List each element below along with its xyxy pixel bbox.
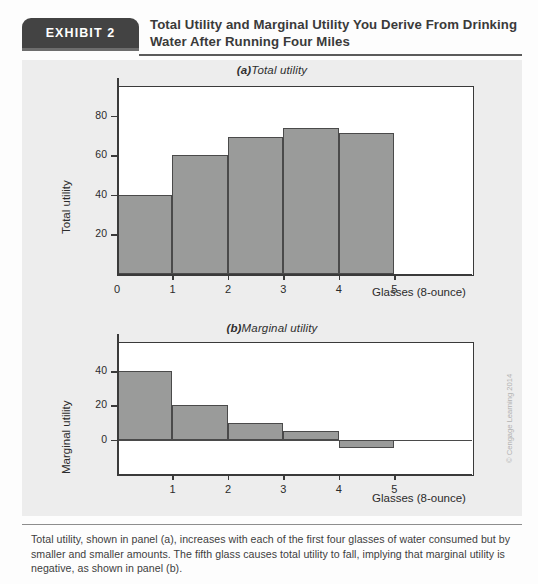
- chart-b-xtick: [228, 474, 230, 480]
- chart-a-ytick: [111, 155, 117, 157]
- chart-a-xtick: [172, 274, 174, 280]
- chart-a-xtick: [339, 274, 341, 280]
- copyright-credit: © Cengage Learning 2014: [505, 374, 514, 463]
- exhibit-header: EXHIBIT 2 Total Utility and Marginal Uti…: [0, 18, 538, 60]
- chart-a-ytick: [111, 116, 117, 118]
- chart-b-xtick-label: 5: [382, 483, 406, 495]
- bar-4-5: [339, 133, 394, 274]
- chart-b-ytick: [111, 440, 117, 442]
- chart-b-ytick-label: 0: [77, 433, 107, 445]
- chart-a-xtick-label: 4: [327, 283, 351, 295]
- chart-b-xtick: [283, 474, 285, 480]
- chart-a-y-axis: [117, 78, 119, 274]
- badge-underline: [22, 48, 139, 51]
- chart-a-title-text: Total utility: [251, 64, 307, 76]
- bar-0-1: [117, 371, 172, 440]
- chart-a-title-prefix: (a): [237, 64, 252, 76]
- chart-b-xtick-label: 3: [271, 483, 295, 495]
- chart-b-zero-line: [117, 440, 472, 441]
- chart-a-title: (a)Total utility: [22, 64, 522, 76]
- chart-b-xtick: [172, 474, 174, 480]
- chart-b-x-axis: [117, 474, 472, 476]
- chart-a-xtick-label: 0: [105, 283, 129, 295]
- chart-b-title-text: Marginal utility: [242, 322, 318, 334]
- chart-a-xtick: [283, 274, 285, 280]
- chart-a-ytick-label: 60: [77, 148, 107, 160]
- bar-3-4: [283, 128, 338, 274]
- chart-total-utility: (a)Total utility Total utility Glasses (…: [22, 64, 522, 304]
- chart-a-ytick-label: 20: [77, 227, 107, 239]
- chart-a-xtick-label: 3: [271, 283, 295, 295]
- chart-b-xtick: [394, 474, 396, 480]
- bar-2-3: [228, 423, 283, 440]
- chart-b-ytick: [111, 405, 117, 407]
- chart-b-y-axis: [117, 334, 119, 474]
- chart-b-title-prefix: (b): [226, 322, 241, 334]
- exhibit-title: Total Utility and Marginal Utility You D…: [150, 17, 522, 50]
- chart-a-xtick-label: 5: [382, 283, 406, 295]
- chart-a-xtick-label: 2: [216, 283, 240, 295]
- chart-a-ylabel: Total utility: [60, 180, 72, 234]
- bar-1-2: [172, 155, 227, 274]
- bar-2-3: [228, 137, 283, 274]
- chart-b-title: (b)Marginal utility: [22, 322, 522, 334]
- chart-b-xtick: [339, 474, 341, 480]
- chart-a-ytick: [111, 195, 117, 197]
- bar-0-1: [117, 195, 172, 274]
- exhibit-badge: EXHIBIT 2: [22, 18, 139, 48]
- chart-b-xtick-label: 1: [160, 483, 184, 495]
- chart-a-ytick: [111, 234, 117, 236]
- bar-3-4: [283, 431, 338, 440]
- chart-b-ylabel: Marginal utility: [60, 401, 72, 475]
- chart-a-x-axis: [117, 274, 472, 276]
- caption-divider: [22, 524, 522, 525]
- header-divider: [139, 54, 522, 56]
- chart-a-xtick-label: 1: [160, 283, 184, 295]
- chart-a-ytick-label: 80: [77, 109, 107, 121]
- chart-a-xtick: [228, 274, 230, 280]
- chart-b-ytick-label: 40: [77, 364, 107, 376]
- chart-b-ytick: [111, 371, 117, 373]
- bar-1-2: [172, 405, 227, 439]
- bar-4-5: [339, 440, 394, 449]
- chart-b-xtick-label: 2: [216, 483, 240, 495]
- exhibit-body: (a)Total utility Total utility Glasses (…: [22, 60, 522, 516]
- exhibit-page: EXHIBIT 2 Total Utility and Marginal Uti…: [0, 0, 538, 584]
- chart-b-xtick-label: 4: [327, 483, 351, 495]
- chart-b-ytick-label: 20: [77, 398, 107, 410]
- exhibit-caption: Total utility, shown in panel (a), incre…: [31, 532, 512, 576]
- chart-a-ytick-label: 40: [77, 188, 107, 200]
- chart-marginal-utility: (b)Marginal utility Marginal utility Gla…: [22, 322, 522, 516]
- chart-a-xtick: [394, 274, 396, 280]
